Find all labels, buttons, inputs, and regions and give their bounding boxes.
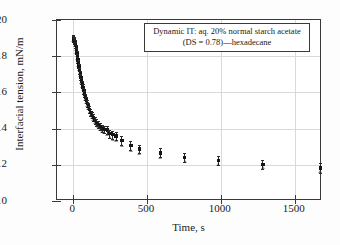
x-tick <box>295 199 296 204</box>
gridline-horizontal <box>57 165 320 166</box>
square-marker <box>129 144 132 147</box>
error-bar-cap-top <box>106 126 109 127</box>
x-tick <box>147 199 148 204</box>
y-tick-inner <box>57 165 61 166</box>
error-bar-cap-bottom <box>115 140 118 141</box>
error-bar-cap-bottom <box>138 153 141 154</box>
x-tick-label-1500: 1500 <box>271 203 317 214</box>
y-tick-label-16: 16 <box>0 86 7 97</box>
x-tick-label-500: 500 <box>123 203 169 214</box>
error-bar-cap-bottom <box>319 173 322 174</box>
square-marker <box>114 134 117 137</box>
square-marker <box>159 151 162 154</box>
square-marker <box>138 147 141 150</box>
error-bar-cap-bottom <box>217 165 220 166</box>
y-tick-label-18: 18 <box>0 50 7 61</box>
square-marker <box>261 163 264 166</box>
x-tick-inner <box>221 195 222 199</box>
error-bar-cap-top <box>261 160 264 161</box>
y-tick-inner <box>57 56 61 57</box>
annotation-line-1: Dynamic IT: aq. 20% normal starch acetat… <box>148 26 306 37</box>
x-tick <box>73 199 74 204</box>
square-marker <box>183 156 186 159</box>
error-bar-cap-bottom <box>120 145 123 146</box>
square-marker <box>319 166 322 169</box>
square-marker <box>120 139 123 142</box>
error-bar-cap-top <box>217 156 220 157</box>
error-bar-cap-bottom <box>129 150 132 151</box>
chart-figure: Interfacial tension, mN/m 10 12 14 16 18… <box>0 0 340 245</box>
error-bar-cap-top <box>319 163 322 164</box>
error-bar-cap-top <box>115 132 118 133</box>
y-tick-inner <box>57 20 61 21</box>
square-marker <box>217 159 220 162</box>
x-axis-title: Time, s <box>56 221 321 233</box>
x-tick <box>221 199 222 204</box>
error-bar-cap-top <box>129 141 132 142</box>
x-tick-label-1000: 1000 <box>197 203 243 214</box>
gridline-horizontal <box>57 92 320 93</box>
y-tick-inner <box>57 129 61 130</box>
x-tick-inner <box>295 195 296 199</box>
gridline-horizontal <box>57 56 320 57</box>
y-tick-inner <box>57 201 61 202</box>
y-tick-label-20: 20 <box>0 14 7 25</box>
annotation-line-2: (DS = 0.78)—hexadecane <box>148 37 306 48</box>
x-tick-inner <box>147 195 148 199</box>
error-bar-cap-top <box>138 145 141 146</box>
plot-area: Dynamic IT: aq. 20% normal starch acetat… <box>56 19 321 200</box>
error-bar-cap-bottom <box>183 162 186 163</box>
error-bar-cap-bottom <box>159 157 162 158</box>
y-tick-label-10: 10 <box>0 195 7 206</box>
error-bar-cap-top <box>159 148 162 149</box>
error-bar-cap-top <box>183 153 186 154</box>
y-tick-label-14: 14 <box>0 122 7 133</box>
error-bar-cap-bottom <box>261 169 264 170</box>
annotation-legend-box: Dynamic IT: aq. 20% normal starch acetat… <box>144 23 310 52</box>
y-tick-inner <box>57 92 61 93</box>
x-tick-inner <box>73 195 74 199</box>
x-tick-label-0: 0 <box>49 203 95 214</box>
error-bar-cap-top <box>120 136 123 137</box>
y-tick-label-12: 12 <box>0 158 7 169</box>
y-axis-title: Interfacial tension, mN/m <box>13 9 25 179</box>
